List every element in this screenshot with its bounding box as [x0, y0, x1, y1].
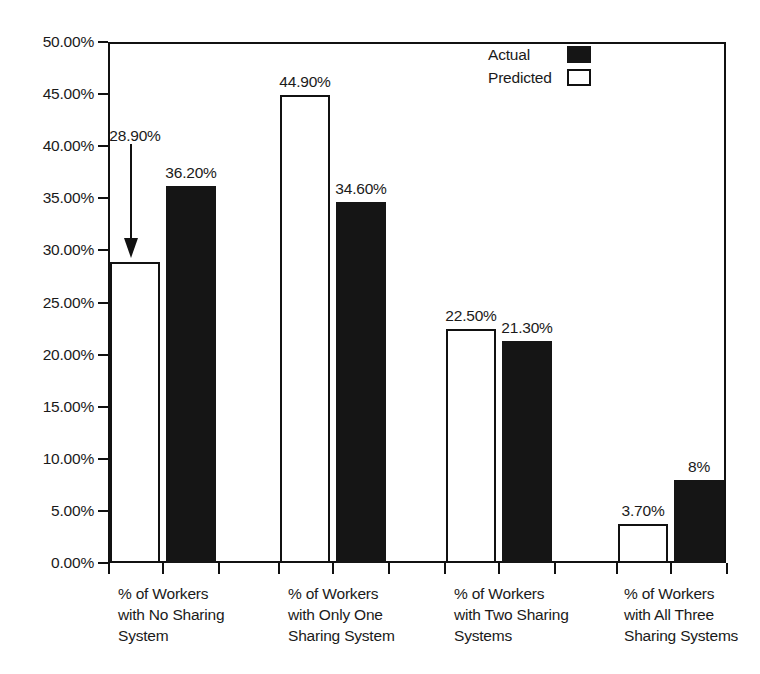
y-axis-tick-mark: [98, 93, 108, 95]
y-axis-tick-mark: [98, 354, 108, 356]
x-axis-tick-mark: [444, 563, 446, 574]
y-axis-tick-mark: [98, 562, 108, 564]
x-axis-tick-mark: [726, 563, 728, 574]
y-axis: 50.00%45.00%40.00%35.00%30.00%25.00%20.0…: [0, 0, 108, 674]
x-axis-tick-mark: [388, 563, 390, 574]
y-axis-tick-label: 20.00%: [2, 347, 94, 363]
y-axis-tick-mark: [98, 302, 108, 304]
y-axis-tick-mark: [98, 145, 108, 147]
y-axis-tick-label: 15.00%: [2, 399, 94, 415]
y-axis-tick-label: 35.00%: [2, 190, 94, 206]
y-axis-tick-label: 30.00%: [2, 242, 94, 258]
bar-value-label-actual: 8%: [654, 459, 744, 475]
y-axis-tick-label: 45.00%: [2, 86, 94, 102]
x-axis-tick-mark: [162, 563, 164, 574]
y-axis-tick-mark: [98, 406, 108, 408]
y-axis-tick-label: 0.00%: [2, 555, 94, 571]
y-axis-tick-mark: [98, 458, 108, 460]
bar-value-label-actual: 34.60%: [316, 181, 406, 197]
x-axis-tick-mark: [670, 563, 672, 574]
bar-actual: [502, 341, 552, 563]
y-axis-tick-label: 5.00%: [2, 503, 94, 519]
y-axis-tick-mark: [98, 41, 108, 43]
y-axis-tick-label: 25.00%: [2, 295, 94, 311]
y-axis-tick-mark: [98, 197, 108, 199]
bar-value-label-actual: 21.30%: [482, 320, 572, 336]
x-axis-tick-mark: [278, 563, 280, 574]
y-axis-tick-label: 40.00%: [2, 138, 94, 154]
x-axis-category-label: % of Workers with All Three Sharing Syst…: [624, 583, 760, 646]
x-axis-category-label: % of Workers with Only One Sharing Syste…: [288, 583, 448, 646]
x-axis-tick-mark: [332, 563, 334, 574]
legend: ActualPredicted: [488, 44, 598, 90]
bar-predicted: [446, 329, 496, 563]
y-axis-tick-label: 10.00%: [2, 451, 94, 467]
legend-item: Predicted: [488, 67, 598, 90]
y-axis-tick-mark: [98, 510, 108, 512]
legend-item: Actual: [488, 44, 598, 67]
bar-actual: [674, 480, 724, 563]
bar-predicted: [110, 262, 160, 563]
x-axis-tick-mark: [108, 563, 110, 574]
legend-item-label: Actual: [488, 44, 530, 65]
x-axis-category-label: % of Workers with No Sharing System: [118, 583, 278, 646]
legend-swatch-predicted: [567, 69, 591, 86]
x-axis-tick-mark: [218, 563, 220, 574]
x-axis-tick-mark: [554, 563, 556, 574]
x-axis-category-label: % of Workers with Two Sharing Systems: [454, 583, 614, 646]
y-axis-tick-label: 50.00%: [2, 34, 94, 50]
bar-value-label-predicted: 44.90%: [260, 74, 350, 90]
x-axis-tick-mark: [498, 563, 500, 574]
y-axis-tick-mark: [98, 249, 108, 251]
x-axis-tick-mark: [616, 563, 618, 574]
legend-swatch-actual: [567, 46, 591, 63]
bar-actual: [336, 202, 386, 563]
bar-value-label-predicted: 3.70%: [598, 503, 688, 519]
bar-predicted: [280, 95, 330, 563]
bar-predicted: [618, 524, 668, 563]
bar-chart: 50.00%45.00%40.00%35.00%30.00%25.00%20.0…: [0, 0, 760, 674]
annotation-arrow-icon: [108, 130, 188, 270]
legend-item-label: Predicted: [488, 67, 552, 88]
